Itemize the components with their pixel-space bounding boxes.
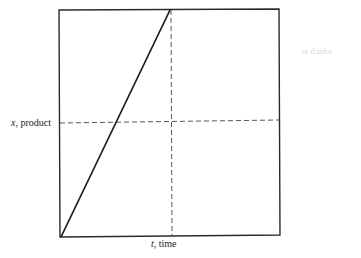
linear-product-time-diagram xyxy=(0,0,361,258)
y-axis-label: x, product xyxy=(11,118,51,128)
vertical-dashed-line xyxy=(171,10,172,236)
y-axis-text: , product xyxy=(15,117,51,128)
bleed-through-text: which is xyxy=(302,46,332,56)
product-line xyxy=(61,10,170,237)
x-axis-label: t, time xyxy=(151,239,177,249)
horizontal-dashed-line xyxy=(60,120,279,123)
x-axis-text: , time xyxy=(154,238,177,249)
